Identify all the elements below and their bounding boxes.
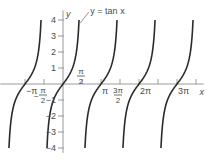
- fraction-numerator: 3π: [113, 86, 123, 95]
- x-tick-label: 3π: [178, 86, 189, 96]
- fraction-denominator: 2: [41, 96, 46, 105]
- x-axis-label: x: [199, 87, 205, 97]
- fraction-numerator: π: [40, 86, 46, 95]
- y-tick-label: −4: [46, 143, 56, 153]
- fraction-denominator: 2: [116, 96, 121, 105]
- curve-label-leader: [80, 12, 89, 23]
- fraction-sign: −: [34, 92, 39, 101]
- y-tick-label: 2: [51, 47, 56, 57]
- y-tick-label: −1: [46, 95, 56, 105]
- curve-label: y = tan x: [90, 6, 125, 16]
- x-tick-label: π: [102, 86, 108, 96]
- fraction-numerator: π: [78, 67, 84, 76]
- y-tick-label: 3: [51, 31, 56, 41]
- x-tick-label: 3π2: [113, 86, 123, 105]
- fraction-denominator: 2: [79, 77, 84, 86]
- y-tick-label: 4: [51, 15, 56, 25]
- labels: xy4321−1−2−3−4−π−π2π2π3π22π3πy = tan x: [26, 6, 205, 153]
- y-tick-label: −2: [46, 111, 56, 121]
- tan-chart: xy4321−1−2−3−4−π−π2π2π3π22π3πy = tan x: [0, 0, 206, 160]
- y-tick-label: 1: [51, 63, 56, 73]
- x-tick-label: 2π: [140, 86, 151, 96]
- y-tick-label: −3: [46, 127, 56, 137]
- y-axis-label: y: [65, 9, 71, 19]
- x-tick-label: π2: [77, 67, 85, 86]
